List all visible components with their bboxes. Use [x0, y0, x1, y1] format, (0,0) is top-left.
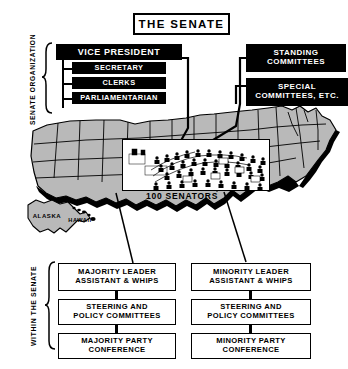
senate-organization-chart: THE SENATE: [0, 0, 348, 369]
top-connectors: [178, 58, 246, 148]
majority-leader-box[interactable]: MAJORITY LEADER ASSISTANT & WHIPS: [58, 263, 176, 291]
senate-organization-caption: SENATE ORGANIZATION: [22, 40, 44, 118]
minority-conference-box[interactable]: MINORITY PARTY CONFERENCE: [191, 333, 311, 359]
officer-tree-branch-3: [62, 98, 72, 100]
bottom-connectors: [116, 192, 246, 263]
special-committees-box[interactable]: SPECIAL COMMITTEES, ETC.: [246, 78, 348, 106]
map-east-shadow: [299, 130, 340, 188]
chart-title-box: THE SENATE: [133, 13, 230, 35]
minority-connector-2: [249, 325, 252, 333]
majority-steering-box[interactable]: STEERING AND POLICY COMMITTEES: [58, 299, 176, 325]
map-hawaii: [72, 207, 95, 221]
minority-leader-box[interactable]: MINORITY LEADER ASSISTANT & WHIPS: [191, 263, 311, 291]
senate-chamber-inset: [122, 139, 270, 191]
majority-connector-1: [115, 291, 118, 299]
alaska-label: ALASKA: [33, 213, 62, 219]
within-bracket: [45, 262, 55, 349]
officer-tree-branch-1: [62, 68, 72, 70]
minority-steering-box[interactable]: STEERING AND POLICY COMMITTEES: [191, 299, 311, 325]
page-title: THE SENATE: [139, 18, 225, 30]
within-the-senate-caption: WITHIN THE SENATE: [27, 262, 41, 350]
majority-connector-2: [115, 325, 118, 333]
secretary-box[interactable]: SECRETARY: [72, 62, 166, 74]
parliamentarian-box[interactable]: PARLIAMENTARIAN: [72, 92, 166, 104]
standing-committees-box[interactable]: STANDING COMMITTEES: [246, 44, 346, 72]
hawaii-label: HAWAII: [68, 217, 92, 223]
clerks-box[interactable]: CLERKS: [72, 77, 166, 89]
map-alaska: [28, 200, 90, 233]
minority-connector-1: [249, 291, 252, 299]
majority-conference-box[interactable]: MAJORITY PARTY CONFERENCE: [58, 333, 176, 359]
chamber-illustration: [123, 140, 270, 191]
vice-president-box[interactable]: VICE PRESIDENT: [56, 44, 182, 60]
inset-caption: 100 SENATORS: [146, 191, 218, 201]
officer-tree-branch-2: [62, 83, 72, 85]
